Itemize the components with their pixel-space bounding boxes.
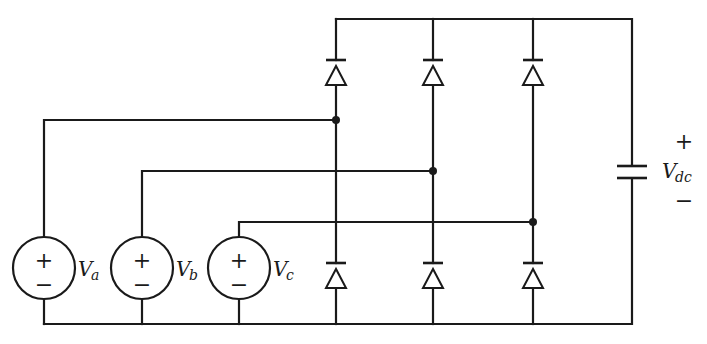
vdc-plus-sign: +	[675, 129, 693, 154]
phase-b-wire	[142, 171, 433, 237]
vdc-minus-sign: −	[675, 188, 693, 213]
junction-dot-c	[529, 218, 537, 226]
vdc-subscript: dc	[675, 169, 692, 185]
plus-sign: +	[230, 248, 248, 273]
source-subscript: c	[286, 267, 294, 283]
source-subscript: a	[91, 267, 99, 283]
voltage-source-c: + − V c	[208, 237, 294, 299]
diode-icon-lower-b	[423, 263, 443, 288]
voltage-source-b: + − V b	[111, 237, 198, 299]
source-subscript: b	[189, 267, 198, 283]
diode-icon-upper-b	[423, 60, 443, 85]
minus-sign: −	[35, 272, 53, 297]
minus-sign: −	[230, 272, 248, 297]
diode-icon-upper-a	[326, 60, 346, 85]
phase-a-wire	[44, 120, 336, 237]
phase-c-wire	[239, 222, 533, 237]
plus-sign: +	[133, 248, 151, 273]
diode-icon-lower-c	[523, 263, 543, 288]
junction-dot-a	[332, 116, 340, 124]
capacitor-icon	[617, 166, 647, 178]
plus-sign: +	[35, 248, 53, 273]
vdc-label: + V dc −	[662, 129, 693, 213]
junction-dot-b	[429, 167, 437, 175]
voltage-source-a: + − V a	[13, 237, 99, 299]
minus-sign: −	[133, 272, 151, 297]
rectifier-circuit: + − V a + − V b + − V c + V dc −	[0, 0, 707, 344]
diode-icon-upper-c	[523, 60, 543, 85]
diode-icon-lower-a	[326, 263, 346, 288]
top-dc-rail	[336, 19, 632, 166]
